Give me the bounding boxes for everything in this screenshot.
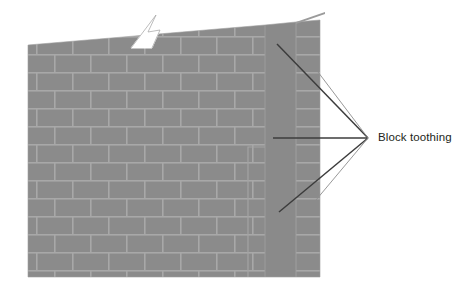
leader-apex-lower-arm	[316, 138, 368, 200]
leader-apex-upper-arm	[318, 72, 368, 138]
main-wall-face	[20, 12, 280, 288]
block-toothing-label: Block toothing	[378, 132, 452, 144]
return-edge-block-column	[292, 14, 324, 284]
block-toothing-figure: Block toothing	[0, 0, 474, 290]
wall-drawing	[0, 0, 474, 290]
